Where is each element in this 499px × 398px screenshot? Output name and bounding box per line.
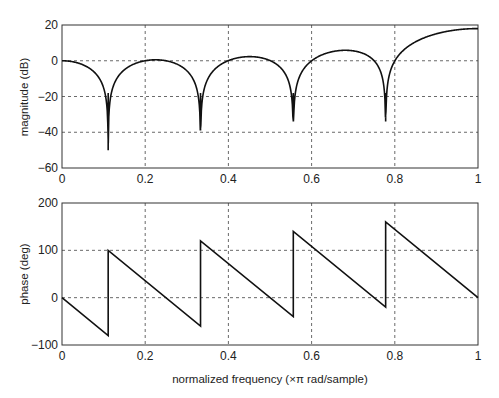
x-tick-label: 0.8 xyxy=(386,349,403,363)
x-tick-label: 0.2 xyxy=(137,172,154,186)
x-tick-label: 0 xyxy=(59,349,66,363)
y-tick-label: 20 xyxy=(45,18,59,32)
phase-curve xyxy=(62,222,478,336)
x-tick-label: 0.2 xyxy=(137,349,154,363)
magnitude-x-ticks: 00.20.40.60.81 xyxy=(59,172,482,186)
frequency-response-figure: 200−20−40−60 00.20.40.60.81 magnitude (d… xyxy=(0,0,499,398)
phase-x-ticks: 00.20.40.60.81 xyxy=(59,349,482,363)
y-tick-label: −20 xyxy=(38,90,59,104)
y-tick-label: 0 xyxy=(51,291,58,305)
magnitude-plot: 200−20−40−60 00.20.40.60.81 magnitude (d… xyxy=(18,18,482,186)
phase-grid xyxy=(62,203,478,345)
y-tick-label: 100 xyxy=(38,243,58,257)
x-tick-label: 0 xyxy=(59,172,66,186)
y-tick-label: −40 xyxy=(38,125,59,139)
phase-y-label: phase (deg) xyxy=(18,243,30,305)
x-tick-label: 1 xyxy=(475,349,482,363)
x-tick-label: 0.6 xyxy=(303,349,320,363)
phase-axes-box xyxy=(62,203,478,345)
x-tick-label: 0.6 xyxy=(303,172,320,186)
magnitude-y-label: magnitude (dB) xyxy=(18,58,30,137)
x-axis-label: normalized frequency (×π rad/sample) xyxy=(172,373,368,385)
phase-y-ticks: 2001000−100 xyxy=(31,196,58,352)
x-tick-label: 0.4 xyxy=(220,172,237,186)
y-tick-label: 0 xyxy=(51,54,58,68)
x-tick-label: 0.4 xyxy=(220,349,237,363)
phase-plot: 2001000−100 00.20.40.60.81 phase (deg) n… xyxy=(18,196,482,385)
x-tick-label: 0.8 xyxy=(386,172,403,186)
magnitude-y-ticks: 200−20−40−60 xyxy=(38,18,59,175)
y-tick-label: −100 xyxy=(31,338,58,352)
x-tick-label: 1 xyxy=(475,172,482,186)
y-tick-label: 200 xyxy=(38,196,58,210)
magnitude-grid xyxy=(62,25,478,168)
y-tick-label: −60 xyxy=(38,161,59,175)
